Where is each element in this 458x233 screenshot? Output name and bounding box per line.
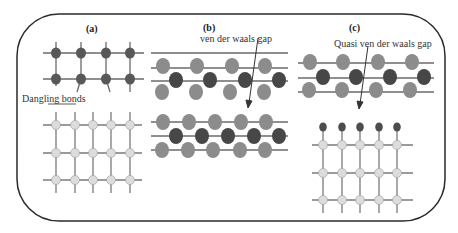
dangling-bonds-label: Dangling bonds <box>22 93 86 104</box>
panel-c-label: (c) <box>349 22 360 34</box>
vdw-gap-label: ven der waals gap <box>200 33 272 44</box>
panel-b-top-stack <box>151 53 288 100</box>
quasi-vdw-gap-label: Quasi ven der waals gap <box>334 38 432 49</box>
heterostructure-diagram: (a) (b) (c) Dangling bonds <box>0 0 458 233</box>
panel-b-bottom-stack <box>151 114 288 158</box>
panel-c-passivating-atoms <box>319 123 401 132</box>
panel-a-label: (a) <box>86 23 98 35</box>
